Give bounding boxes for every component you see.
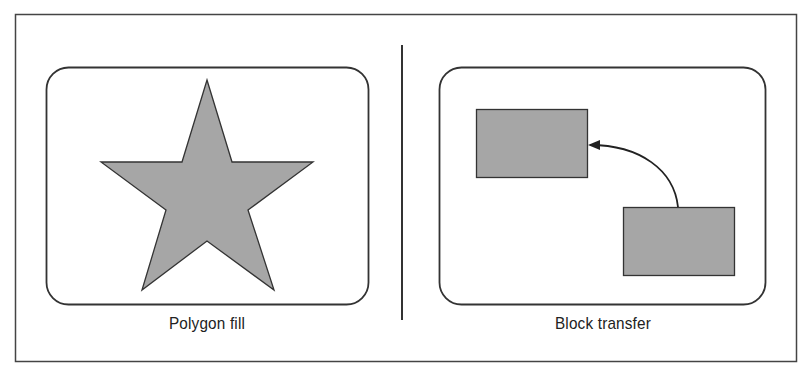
block-transfer-caption: Block transfer xyxy=(513,314,693,334)
destination-block xyxy=(477,110,588,178)
polygon-fill-panel xyxy=(47,68,369,305)
block-transfer-panel xyxy=(440,68,766,305)
polygon-fill-caption: Polygon fill xyxy=(117,314,297,334)
source-block xyxy=(624,208,735,276)
